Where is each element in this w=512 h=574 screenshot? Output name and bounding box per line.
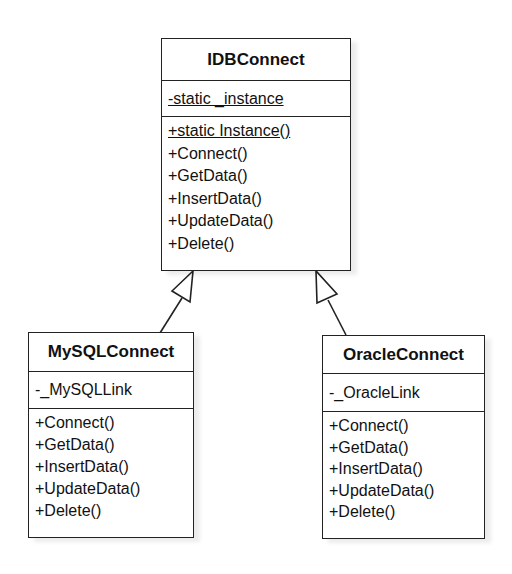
class-oracleconnect[interactable]: OracleConnect -_OracleLink +Connect() +G…: [322, 335, 485, 539]
operation-static-instance: +static Instance(): [168, 120, 350, 143]
operation-connect: +Connect(): [329, 415, 484, 437]
operations-compartment: +Connect() +GetData() +InsertData() +Upd…: [29, 409, 193, 522]
operation-getdata: +GetData(): [329, 437, 484, 459]
operation-insertdata: +InsertData(): [329, 458, 484, 480]
operations-compartment: +static Instance() +Connect() +GetData()…: [162, 117, 350, 255]
operation-updatedata: +UpdateData(): [168, 210, 350, 233]
hollow-triangle-arrowhead-icon: [316, 271, 337, 303]
attribute-mysqllink: -_MySQLLink: [35, 381, 193, 399]
class-name: OracleConnect: [323, 336, 484, 374]
operation-updatedata: +UpdateData(): [329, 480, 484, 502]
operation-insertdata: +InsertData(): [168, 188, 350, 211]
generalization-mysql-to-idbconnect: [160, 271, 193, 333]
operation-connect: +Connect(): [168, 143, 350, 166]
operation-getdata: +GetData(): [168, 165, 350, 188]
generalization-oracle-to-idbconnect: [316, 271, 346, 335]
operation-getdata: +GetData(): [35, 434, 193, 456]
attributes-compartment: -static _instance: [162, 81, 350, 117]
attribute-static-instance: -static _instance: [168, 90, 350, 108]
operations-compartment: +Connect() +GetData() +InsertData() +Upd…: [323, 412, 484, 523]
class-name: IDBConnect: [162, 39, 350, 81]
operation-connect: +Connect(): [35, 412, 193, 434]
operation-updatedata: +UpdateData(): [35, 478, 193, 500]
attributes-compartment: -_MySQLLink: [29, 372, 193, 409]
operation-delete: +Delete(): [168, 233, 350, 256]
class-idbconnect[interactable]: IDBConnect -static _instance +static Ins…: [161, 38, 351, 271]
operation-delete: +Delete(): [35, 500, 193, 522]
class-name: MySQLConnect: [29, 333, 193, 372]
class-mysqlconnect[interactable]: MySQLConnect -_MySQLLink +Connect() +Get…: [28, 332, 194, 538]
hollow-triangle-arrowhead-icon: [172, 271, 193, 302]
attribute-oraclelink: -_OracleLink: [329, 384, 484, 402]
operation-insertdata: +InsertData(): [35, 456, 193, 478]
operation-delete: +Delete(): [329, 501, 484, 523]
attributes-compartment: -_OracleLink: [323, 374, 484, 412]
